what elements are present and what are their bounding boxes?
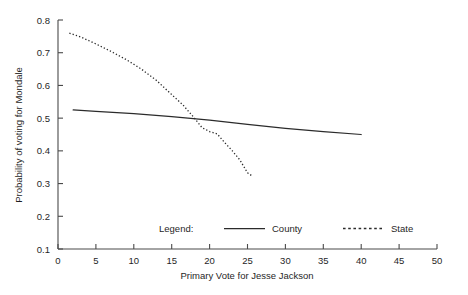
y-tick-label-0.1: 0.1 <box>37 244 50 255</box>
x-tick-label-0: 0 <box>55 255 60 266</box>
chart-container: 0.10.20.30.40.50.60.70.8 051015202530354… <box>0 0 468 295</box>
x-tick-label-45: 45 <box>394 255 405 266</box>
x-tick-label-50: 50 <box>432 255 443 266</box>
data-series-group <box>69 33 361 175</box>
y-tick-label-0.3: 0.3 <box>37 178 50 189</box>
x-tick-label-20: 20 <box>204 255 215 266</box>
legend-label-county: County <box>272 223 302 234</box>
legend-title: Legend: <box>159 223 193 234</box>
x-tick-label-15: 15 <box>166 255 177 266</box>
y-axis-title: Probability of voting for Mondale <box>13 67 24 203</box>
x-tick-label-25: 25 <box>242 255 253 266</box>
y-tick-label-0.8: 0.8 <box>37 15 50 26</box>
chart-legend: Legend: County State <box>159 223 413 234</box>
y-tick-label-0.7: 0.7 <box>37 47 50 58</box>
y-axis-ticks <box>58 20 63 249</box>
series-line-state <box>69 33 251 175</box>
x-tick-label-10: 10 <box>129 255 140 266</box>
y-tick-label-0.2: 0.2 <box>37 211 50 222</box>
x-axis: 05101520253035404550 <box>55 244 442 266</box>
legend-label-state: State <box>391 223 413 234</box>
y-tick-label-0.4: 0.4 <box>37 145 50 156</box>
series-line-county <box>73 110 361 135</box>
y-axis: 0.10.20.30.40.50.60.70.8 <box>37 15 63 255</box>
x-axis-title: Primary Vote for Jesse Jackson <box>180 270 313 281</box>
x-tick-label-40: 40 <box>356 255 367 266</box>
x-tick-label-5: 5 <box>93 255 98 266</box>
x-axis-ticks <box>58 244 437 249</box>
x-axis-tick-labels: 05101520253035404550 <box>55 255 442 266</box>
chart-plot-area: 0.10.20.30.40.50.60.70.8 051015202530354… <box>0 0 468 295</box>
y-tick-label-0.6: 0.6 <box>37 80 50 91</box>
y-axis-tick-labels: 0.10.20.30.40.50.60.70.8 <box>37 15 50 255</box>
x-tick-label-30: 30 <box>280 255 291 266</box>
x-tick-label-35: 35 <box>318 255 329 266</box>
y-tick-label-0.5: 0.5 <box>37 113 50 124</box>
